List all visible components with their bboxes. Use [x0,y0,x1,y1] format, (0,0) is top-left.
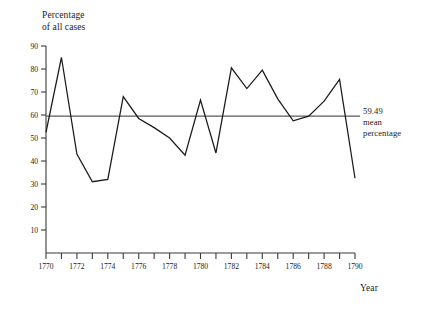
mean-line-value: 59.49 [363,106,383,116]
x-axis-tick-label: 1778 [162,262,177,271]
mean-line-label-mean: mean [363,117,382,127]
line-chart-canvas: 1020304050607080901770177217741776177817… [0,0,430,310]
mean-line-annotation: 59.49meanpercentage [363,106,401,140]
x-axis-title: Year [360,283,378,293]
y-axis-tick-label: 20 [30,203,38,212]
x-axis-tick-label: 1788 [317,262,332,271]
x-axis-tick-label: 1784 [255,262,270,271]
y-axis-tick-label: 30 [30,180,38,189]
y-axis-tick-label: 70 [30,88,38,97]
data-series-line [46,58,355,182]
y-axis-tick-label: 40 [30,157,38,166]
x-axis-tick-label: 1772 [69,262,84,271]
mean-line-label-percentage: percentage [363,128,401,138]
x-axis-tick-label: 1790 [347,262,362,271]
x-axis-tick-label: 1782 [224,262,239,271]
y-axis-tick-label: 50 [30,134,38,143]
y-axis-title: Percentage of all cases [42,10,85,33]
chart-figure: 1020304050607080901770177217741776177817… [0,0,430,310]
x-axis-tick-label: 1770 [38,262,53,271]
y-axis-tick-label: 90 [30,42,38,51]
x-axis-tick-label: 1774 [100,262,115,271]
y-axis-tick-label: 80 [30,65,38,74]
x-axis-tick-label: 1780 [193,262,208,271]
x-axis-tick-label: 1786 [286,262,301,271]
y-axis-tick-label: 10 [30,226,38,235]
x-axis-tick-label: 1776 [131,262,146,271]
y-axis-tick-label: 60 [30,111,38,120]
